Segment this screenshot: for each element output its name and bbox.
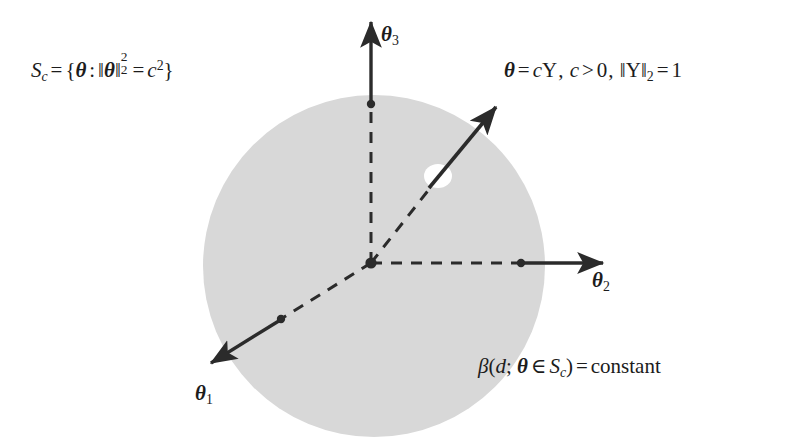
formula-beta-constant: β(d; θ∈Sc)=constant	[478, 354, 661, 381]
beta-semicolon: ;	[506, 354, 512, 378]
axis-label-theta2: θ2	[592, 268, 610, 295]
formula-norm-indices: 22	[121, 56, 130, 77]
axis-label-theta3: θ3	[381, 22, 399, 49]
axis-theta1-tick-dot	[277, 315, 285, 323]
beta-equals: =	[573, 354, 591, 378]
axis-label-theta3-subscript: 3	[392, 33, 399, 48]
formula-norm-subscript: 2	[121, 62, 128, 78]
formula-theta: θ	[75, 58, 86, 82]
beta-paren-close: )	[566, 354, 573, 378]
axis-label-theta1-symbol: θ	[195, 381, 206, 405]
beta-S: S	[549, 354, 560, 378]
axis-label-theta3-symbol: θ	[381, 22, 392, 46]
formula-equals: =	[48, 58, 66, 82]
formula-theta-definition: θ=cΥ, c>0, ‖Υ‖2=1	[504, 58, 682, 85]
theta-def-upsilon: Υ	[542, 58, 557, 82]
origin-dot	[365, 257, 376, 268]
beta-theta: θ	[517, 354, 528, 378]
formula-theta-norm: θ	[104, 58, 115, 82]
axis-label-theta1: θ1	[195, 381, 213, 408]
formula-S: S	[31, 58, 42, 82]
theta-def-zero: 0	[597, 58, 608, 82]
axis-label-theta2-symbol: θ	[592, 268, 603, 292]
theta-def-upsilon-2: Υ	[626, 58, 641, 82]
beta-symbol: β	[478, 354, 488, 378]
formula-c-superscript: 2	[157, 58, 164, 73]
theta-def-comma-2: ,	[607, 58, 614, 82]
theta-def-one: 1	[672, 58, 683, 82]
formula-S-subscript: c	[42, 69, 48, 84]
formula-equals-2: =	[130, 58, 148, 82]
theta-def-greater-than: >	[579, 58, 597, 82]
theta-def-c-2: c	[570, 58, 579, 82]
axis-label-theta1-subscript: 1	[206, 392, 213, 407]
beta-constant-word: constant	[591, 354, 661, 378]
formula-brace-open: {	[65, 58, 75, 82]
formula-colon: :	[86, 58, 98, 82]
beta-element-of: ∈	[528, 354, 549, 378]
axis-label-theta2-subscript: 2	[603, 279, 610, 294]
axis-theta2-tick-dot	[517, 259, 525, 267]
beta-d: d	[495, 354, 506, 378]
theta-def-equals-2: =	[654, 58, 672, 82]
theta-def-c: c	[533, 58, 542, 82]
axis-theta3-tick-dot	[367, 100, 375, 108]
formula-c: c	[147, 58, 156, 82]
formula-sphere-set: Sc={θ:‖θ‖22=c2}	[31, 56, 174, 85]
theta-def-theta: θ	[504, 58, 515, 82]
theta-def-equals: =	[515, 58, 533, 82]
theta-def-norm-subscript: 2	[647, 69, 654, 84]
theta-def-comma-1: ,	[557, 58, 564, 82]
figure-canvas: Sc={θ:‖θ‖22=c2} θ=cΥ, c>0, ‖Υ‖2=1 β(d; θ…	[0, 0, 797, 448]
formula-brace-close: }	[164, 58, 174, 82]
